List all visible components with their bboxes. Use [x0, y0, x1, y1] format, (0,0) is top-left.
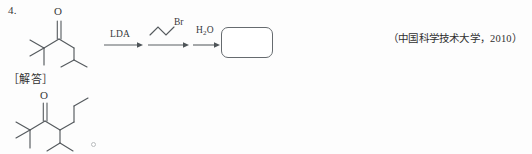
reaction-arrow-2	[148, 40, 190, 50]
reagent-water-label: H2O	[196, 25, 214, 35]
water-subscript: 2	[203, 29, 207, 37]
answer-heading: ［解答］	[8, 70, 54, 86]
source-citation: （中国科学技术大学，2010）	[388, 30, 522, 45]
water-h: H	[196, 25, 203, 35]
answer-product-structure	[12, 92, 112, 154]
product-answer-box[interactable]	[221, 27, 273, 58]
reagent-bromine-label: Br	[174, 18, 184, 28]
reaction-arrow-1	[104, 40, 144, 50]
reaction-arrow-3	[193, 40, 221, 50]
reagent-lda-label: LDA	[110, 29, 130, 39]
scan-artifact-speck	[91, 142, 96, 147]
substrate-structure	[26, 8, 98, 68]
substrate-carbonyl-oxygen-label: O	[54, 6, 62, 17]
product-carbonyl-oxygen-label: O	[40, 90, 48, 101]
problem-number: 4.	[8, 4, 17, 16]
document-page: 4. O LDA	[0, 0, 532, 154]
water-o: O	[207, 25, 214, 35]
